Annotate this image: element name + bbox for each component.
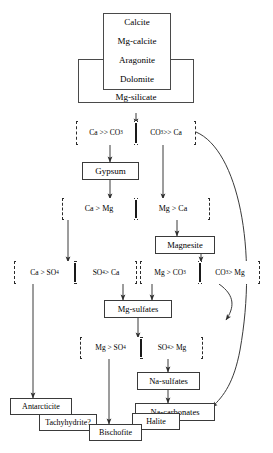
branch-so4-gt-mg: SO4 > Mg (143, 337, 201, 359)
branch-ca-gt-co3-sub: 3 (120, 130, 123, 135)
branch-co3-gt-mg: CO3 > Mg (202, 261, 258, 284)
branch-ca-gt-so4-sub: 4 (56, 270, 59, 275)
branch-ca-gt-mg: Ca > Mg (64, 198, 134, 220)
branch-co3-gt-ca-tail: >> Ca (163, 129, 182, 137)
branch-ca-gt-co3: Ca >> CO3 (78, 121, 134, 145)
branch-2-divider (135, 200, 137, 218)
branch-so4-gt-mg-tail: > Mg (170, 344, 187, 352)
branch-co3-gt-mg-label: CO (215, 269, 225, 277)
node-bischofite: Bischofite (89, 424, 142, 441)
branch-mg-gt-co3-label: Mg > CO (154, 269, 183, 277)
branch-5-divider (140, 339, 142, 357)
branch-so4-gt-ca: SO4 > Ca (77, 261, 135, 284)
branch-so4-gt-ca-label: SO (93, 269, 103, 277)
node-na-sulfates: Na-sulfates (137, 372, 200, 390)
branch-co3-gt-ca: CO3 >> Ca (138, 121, 194, 145)
branch-so4-gt-mg-label: SO (158, 344, 168, 352)
branch-so4-gt-ca-tail: > Ca (105, 269, 119, 277)
edge-co3-mg-curve (219, 284, 232, 320)
branch-ca-gt-so4: Ca > SO4 (16, 261, 73, 284)
stack-item-calcite: Calcite (103, 18, 171, 27)
stack-item-mg-calcite: Mg-calcite (103, 37, 171, 46)
branch-mg-gt-co3-sub: 3 (183, 270, 186, 275)
stack-item-mg-silicate: Mg-silicate (78, 93, 194, 102)
branch-co3-gt-ca-label: CO (150, 129, 160, 137)
branch-mg-gt-co3: Mg > CO3 (142, 261, 198, 284)
branch-4-divider (199, 263, 201, 282)
node-mg-sulfates: Mg-sulfates (104, 300, 172, 318)
node-antarcticite: Antarcticite (10, 398, 72, 415)
branch-3-divider (74, 263, 76, 282)
branch-1-divider (135, 123, 137, 143)
branch-mg-gt-so4: Mg > SO4 (82, 337, 139, 359)
branch-ca-gt-co3-label: Ca >> CO (89, 129, 120, 137)
branch-mg-gt-so4-sub: 4 (123, 345, 126, 350)
stack-item-dolomite: Dolomite (103, 75, 171, 84)
branch-ca-gt-so4-label: Ca > SO (30, 269, 56, 277)
branch-co3-gt-mg-tail: > Mg (228, 269, 245, 277)
branch-mg-gt-ca: Mg > Ca (138, 198, 208, 220)
flowchart-diagram: Calcite Mg-calcite Aragonite Dolomite Mg… (0, 0, 273, 453)
node-magnesite: Magnesite (155, 236, 215, 254)
branch-mg-gt-so4-label: Mg > SO (95, 344, 123, 352)
node-gypsum: Gypsum (82, 162, 139, 180)
stack-item-aragonite: Aragonite (103, 56, 171, 65)
